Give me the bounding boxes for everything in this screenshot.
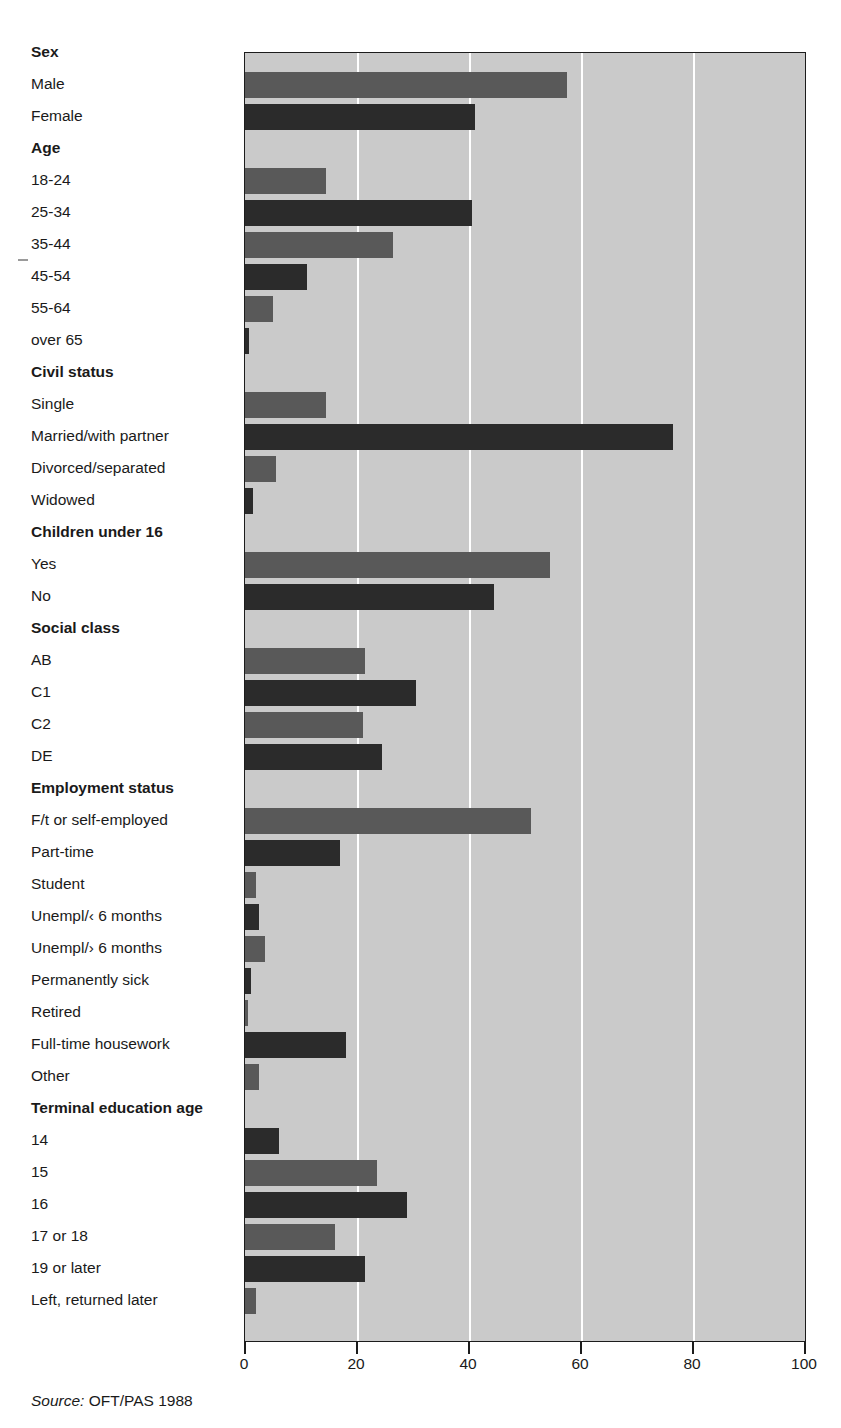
bar xyxy=(245,296,273,322)
category-label: Retired xyxy=(31,996,81,1028)
axis-tick-label: 20 xyxy=(347,1355,364,1373)
bar xyxy=(245,1032,346,1058)
bar xyxy=(245,168,326,194)
category-label: F/t or self-employed xyxy=(31,804,168,836)
group-header-label: Social class xyxy=(31,612,120,644)
bar xyxy=(245,328,249,354)
category-label: Other xyxy=(31,1060,70,1092)
bar xyxy=(245,904,259,930)
group-header-label: Employment status xyxy=(31,772,174,804)
category-label: Divorced/separated xyxy=(31,452,165,484)
category-label: Permanently sick xyxy=(31,964,149,996)
bar xyxy=(245,1000,248,1026)
bar xyxy=(245,424,673,450)
category-label: 18-24 xyxy=(31,164,71,196)
category-label: C1 xyxy=(31,676,51,708)
category-label: over 65 xyxy=(31,324,83,356)
bar xyxy=(245,808,531,834)
category-label: Unempl/‹ 6 months xyxy=(31,900,162,932)
bar xyxy=(245,840,340,866)
axis-tick xyxy=(356,1341,358,1354)
category-label: 35-44 xyxy=(31,228,71,260)
x-axis: 020406080100 xyxy=(244,1341,807,1387)
source-value: OFT/PAS 1988 xyxy=(89,1392,193,1409)
category-label: Married/with partner xyxy=(31,420,169,452)
bar xyxy=(245,1256,365,1282)
category-label: C2 xyxy=(31,708,51,740)
category-label: Left, returned later xyxy=(31,1284,158,1316)
bar-chart-figure: SexMaleFemaleAge18-2425-3435-4445-5455-6… xyxy=(0,0,841,1428)
bar xyxy=(245,552,550,578)
bar xyxy=(245,1064,259,1090)
group-header-label: Children under 16 xyxy=(31,516,163,548)
bar xyxy=(245,104,475,130)
category-label: Student xyxy=(31,868,84,900)
category-label: Female xyxy=(31,100,83,132)
bar xyxy=(245,936,265,962)
category-label: Part-time xyxy=(31,836,94,868)
category-label: Male xyxy=(31,68,65,100)
bar xyxy=(245,392,326,418)
category-label: 25-34 xyxy=(31,196,71,228)
bar xyxy=(245,456,276,482)
axis-tick xyxy=(804,1341,806,1354)
group-header-label: Terminal education age xyxy=(31,1092,203,1124)
category-label: 55-64 xyxy=(31,292,71,324)
bar xyxy=(245,584,494,610)
group-header-label: Age xyxy=(31,132,60,164)
bar xyxy=(245,872,256,898)
axis-tick-label: 0 xyxy=(240,1355,249,1373)
bar xyxy=(245,1192,407,1218)
category-label: 14 xyxy=(31,1124,48,1156)
category-label: Full-time housework xyxy=(31,1028,170,1060)
bar xyxy=(245,1160,377,1186)
category-label: 16 xyxy=(31,1188,48,1220)
axis-tick xyxy=(580,1341,582,1354)
bar xyxy=(245,264,307,290)
category-label: Widowed xyxy=(31,484,95,516)
bar xyxy=(245,712,363,738)
bar xyxy=(245,1288,256,1314)
category-label: 17 or 18 xyxy=(31,1220,88,1252)
bar xyxy=(245,744,382,770)
bar xyxy=(245,648,365,674)
bar xyxy=(245,1224,335,1250)
axis-tick xyxy=(692,1341,694,1354)
category-label: No xyxy=(31,580,51,612)
axis-tick-label: 100 xyxy=(791,1355,817,1373)
category-label: Single xyxy=(31,388,74,420)
bar xyxy=(245,680,416,706)
gridline-40 xyxy=(469,53,471,1341)
title-remnant xyxy=(190,0,790,5)
scan-artifact-dash xyxy=(18,259,28,261)
bar xyxy=(245,200,472,226)
category-label: 19 or later xyxy=(31,1252,101,1284)
category-label: 15 xyxy=(31,1156,48,1188)
category-label: AB xyxy=(31,644,52,676)
bar xyxy=(245,488,253,514)
bar xyxy=(245,72,567,98)
source-note: Source: OFT/PAS 1988 xyxy=(31,1392,193,1410)
axis-tick-label: 60 xyxy=(571,1355,588,1373)
category-label: 45-54 xyxy=(31,260,71,292)
source-label: Source: xyxy=(31,1392,84,1409)
bar xyxy=(245,1128,279,1154)
plot-area xyxy=(244,52,806,1342)
axis-tick xyxy=(244,1341,246,1354)
axis-tick-label: 40 xyxy=(459,1355,476,1373)
group-header-label: Civil status xyxy=(31,356,114,388)
gridline-80 xyxy=(693,53,695,1341)
axis-tick-label: 80 xyxy=(683,1355,700,1373)
category-label: DE xyxy=(31,740,53,772)
group-header-label: Sex xyxy=(31,36,59,68)
bar xyxy=(245,232,393,258)
bar xyxy=(245,968,251,994)
axis-tick xyxy=(468,1341,470,1354)
category-label: Yes xyxy=(31,548,56,580)
gridline-60 xyxy=(581,53,583,1341)
category-label: Unempl/› 6 months xyxy=(31,932,162,964)
